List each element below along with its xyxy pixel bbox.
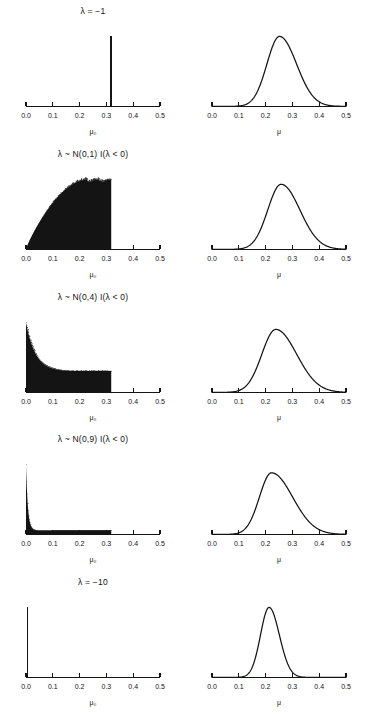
x-tick-label: 0.5 [155,255,165,262]
x-axis-title: μ₀ [90,271,97,279]
x-tick-label: 0.4 [128,398,138,405]
density-curve [212,608,346,678]
x-tick-label: 0.5 [155,398,165,405]
x-tick-label: 0.0 [21,112,31,119]
x-tick-label: 0.2 [261,255,271,262]
density-curve [212,473,346,535]
x-axis-title: μ [277,414,281,422]
density-curve [212,329,346,392]
posterior-plot: 0.00.10.20.30.40.5μ [186,448,372,571]
x-tick-label: 0.1 [234,112,244,119]
x-tick-label: 0.3 [102,255,112,262]
x-tick-label: 0.1 [234,255,244,262]
figure-panel-grid: λ = −10.00.10.20.30.40.5μ₀0.00.10.20.30.… [0,0,372,714]
x-tick-label: 0.5 [155,112,165,119]
x-tick-label: 0.4 [128,541,138,548]
x-tick-label: 0.5 [341,398,351,405]
histogram-bars [26,465,111,535]
x-tick-label: 0.1 [48,112,58,119]
x-tick-label: 0.5 [341,255,351,262]
panel-row: λ ~ N(0,9) I(λ < 0)0.00.10.20.30.40.5μ₀0… [0,428,372,571]
x-tick-label: 0.3 [102,541,112,548]
x-tick-label: 0.4 [314,398,324,405]
x-tick-label: 0.0 [207,398,217,405]
x-tick-label: 0.0 [21,255,31,262]
x-tick-label: 0.2 [75,255,85,262]
x-tick-label: 0.0 [21,541,31,548]
x-tick-label: 0.1 [234,398,244,405]
x-tick-label: 0.4 [128,684,138,691]
x-tick-label: 0.2 [261,398,271,405]
x-axis-title: μ [277,271,281,279]
panel-row: λ ~ N(0,4) I(λ < 0)0.00.10.20.30.40.5μ₀0… [0,286,372,429]
x-tick-label: 0.0 [207,684,217,691]
x-tick-label: 0.3 [102,112,112,119]
x-axis-title: μ₀ [90,128,97,136]
prior-panel: λ = −100.00.10.20.30.40.5μ₀ [0,571,186,714]
x-tick-label: 0.3 [288,684,298,691]
posterior-panel: 0.00.10.20.30.40.5μ [186,0,372,143]
prior-plot: 0.00.10.20.30.40.5μ₀ [0,591,186,714]
x-tick-label: 0.2 [75,684,85,691]
density-curve [212,184,346,249]
x-tick-label: 0.4 [128,255,138,262]
posterior-plot: 0.00.10.20.30.40.5μ [186,306,372,429]
posterior-plot: 0.00.10.20.30.40.5μ [186,20,372,143]
posterior-panel: 0.00.10.20.30.40.5μ [186,571,372,714]
x-axis-title: μ₀ [90,557,97,565]
x-axis-title: μ₀ [90,414,97,422]
posterior-panel: 0.00.10.20.30.40.5μ [186,143,372,286]
prior-panel: λ ~ N(0,9) I(λ < 0)0.00.10.20.30.40.5μ₀ [0,428,186,571]
x-tick-label: 0.2 [75,541,85,548]
x-tick-label: 0.5 [341,112,351,119]
panel-title: λ = −10 [0,577,186,587]
x-tick-label: 0.1 [48,255,58,262]
x-tick-label: 0.4 [314,112,324,119]
x-tick-label: 0.4 [314,684,324,691]
posterior-plot: 0.00.10.20.30.40.5μ [186,591,372,714]
x-tick-label: 0.5 [341,684,351,691]
histogram-bars [26,179,111,249]
x-tick-label: 0.3 [288,255,298,262]
x-tick-label: 0.0 [21,398,31,405]
x-tick-label: 0.2 [75,112,85,119]
x-tick-label: 0.1 [48,684,58,691]
panel-row: λ ~ N(0,1) I(λ < 0)0.00.10.20.30.40.5μ₀0… [0,143,372,286]
posterior-panel: 0.00.10.20.30.40.5μ [186,286,372,429]
x-tick-label: 0.1 [48,398,58,405]
x-tick-label: 0.0 [21,684,31,691]
panel-title: λ ~ N(0,4) I(λ < 0) [0,292,186,302]
x-tick-label: 0.0 [207,255,217,262]
x-tick-label: 0.3 [288,398,298,405]
prior-plot: 0.00.10.20.30.40.5μ₀ [0,163,186,286]
x-tick-label: 0.4 [128,112,138,119]
prior-panel: λ = −10.00.10.20.30.40.5μ₀ [0,0,186,143]
x-tick-label: 0.1 [234,541,244,548]
posterior-panel: 0.00.10.20.30.40.5μ [186,428,372,571]
x-tick-label: 0.3 [102,398,112,405]
panel-title: λ = −1 [0,6,186,16]
panel-row: λ = −100.00.10.20.30.40.5μ₀0.00.10.20.30… [0,571,372,714]
posterior-plot: 0.00.10.20.30.40.5μ [186,163,372,286]
x-tick-label: 0.3 [102,684,112,691]
panel-title: λ ~ N(0,1) I(λ < 0) [0,149,186,159]
prior-panel: λ ~ N(0,4) I(λ < 0)0.00.10.20.30.40.5μ₀ [0,286,186,429]
x-tick-label: 0.3 [288,112,298,119]
x-tick-label: 0.1 [48,541,58,548]
prior-plot: 0.00.10.20.30.40.5μ₀ [0,20,186,143]
x-axis-title: μ [277,700,281,708]
panel-title: λ ~ N(0,9) I(λ < 0) [0,434,186,444]
prior-plot: 0.00.10.20.30.40.5μ₀ [0,306,186,429]
x-axis-title: μ [277,557,281,565]
x-tick-label: 0.0 [207,112,217,119]
x-tick-label: 0.4 [314,255,324,262]
x-tick-label: 0.5 [155,684,165,691]
x-tick-label: 0.2 [261,112,271,119]
x-tick-label: 0.4 [314,541,324,548]
prior-plot: 0.00.10.20.30.40.5μ₀ [0,448,186,571]
x-tick-label: 0.0 [207,541,217,548]
x-axis-title: μ [277,128,281,136]
x-tick-label: 0.1 [234,684,244,691]
x-tick-label: 0.5 [155,541,165,548]
x-tick-label: 0.2 [261,684,271,691]
